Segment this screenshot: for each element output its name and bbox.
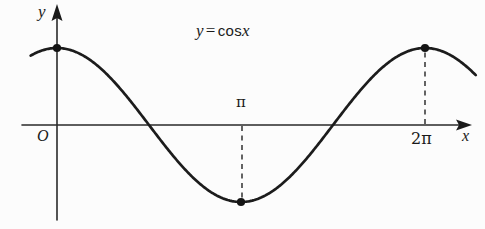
origin-label: O [37,128,49,144]
cosine-graph-figure: y=cosx y x O π 2π [0,0,485,229]
y-axis-label: y [38,3,46,20]
marked-point-2pi-max [421,44,429,52]
equation-equals: = [204,21,218,40]
equation-argument: x [242,21,250,40]
equation-lhs: y [196,21,204,40]
equation-title: y=cosx [196,22,250,39]
x-tick-label-2pi: 2π [411,131,432,147]
x-axis-label: x [462,128,469,144]
marked-point-pi-min [237,198,245,206]
marked-point-origin-max [53,44,61,52]
x-tick-label-pi: π [236,95,246,110]
equation-function-name: cos [218,22,242,39]
